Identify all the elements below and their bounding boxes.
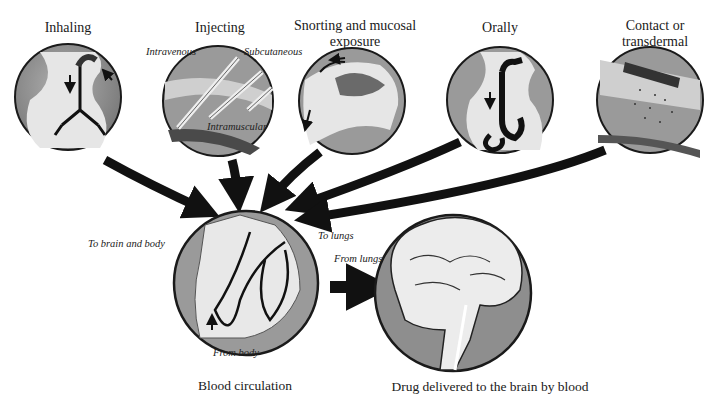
route-title-inhaling: Inhaling — [18, 20, 118, 36]
snorting-illustration — [299, 48, 405, 154]
heart-illustration — [174, 211, 318, 355]
label-to-lungs: To lungs — [318, 230, 354, 241]
contact-illustration — [597, 47, 703, 158]
inhaling-illustration — [15, 44, 121, 150]
label-to-brain-and-body: To brain and body — [88, 238, 165, 249]
label-subcutaneous: Subcutaneous — [244, 46, 302, 57]
caption-blood-circulation: Blood circulation — [170, 378, 320, 394]
contact-title-line2: transdermal — [605, 34, 705, 50]
caption-brain: Drug delivered to the brain by blood — [370, 379, 610, 395]
arrow-inhaling — [105, 160, 205, 210]
route-title-contact: Contact or transdermal — [605, 18, 705, 50]
arrow-injecting — [232, 160, 238, 197]
label-from-lungs: From lungs — [334, 253, 382, 264]
diagram-artwork — [0, 0, 717, 410]
route-title-injecting: Injecting — [170, 20, 270, 36]
snorting-title-line1: Snorting and mucosal — [290, 18, 420, 34]
label-from-body: From body — [213, 347, 259, 358]
snorting-title-line2: exposure — [290, 34, 420, 50]
route-title-snorting: Snorting and mucosal exposure — [290, 18, 420, 50]
label-intramuscular: Intramuscular — [207, 121, 267, 132]
orally-illustration — [447, 47, 553, 153]
route-title-orally: Orally — [460, 20, 540, 36]
label-intravenous: Intravenous — [146, 46, 196, 57]
contact-title-line1: Contact or — [605, 18, 705, 34]
brain-illustration — [375, 215, 531, 371]
arrow-snorting — [270, 152, 320, 200]
injecting-illustration — [163, 46, 273, 156]
